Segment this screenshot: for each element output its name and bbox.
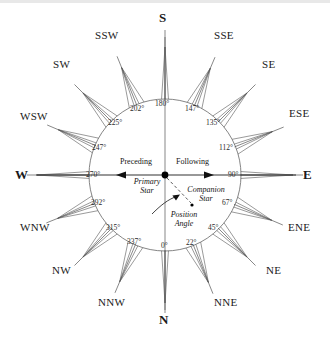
- direction-label-nne: NNE: [214, 297, 238, 308]
- following-label: Following: [176, 158, 209, 166]
- ray-shaft: [218, 228, 247, 257]
- ray-shaft: [194, 68, 210, 106]
- compass-svg: E -->: [0, 0, 330, 338]
- degree-label-112: 112°: [219, 144, 233, 152]
- direction-label-n: N: [159, 313, 169, 326]
- ray-shaft: [122, 67, 137, 105]
- degree-label-202: 202°: [130, 105, 144, 113]
- ray-edge: [58, 130, 94, 148]
- degree-label-270: 270°: [86, 171, 100, 179]
- direction-label-w: W: [15, 168, 28, 181]
- ray-leader: [247, 84, 255, 92]
- ray-shaft: [234, 204, 272, 220]
- ray-leader: [74, 257, 82, 265]
- direction-label-sse: SSE: [214, 30, 234, 41]
- direction-label-ene: ENE: [288, 222, 310, 233]
- compass-rose-figure: E --> S SSE SE ESE E ENE NE NNE N NNW NW…: [0, 0, 330, 338]
- ray-leader: [273, 127, 284, 132]
- primary-star-label-line2: Star: [125, 187, 169, 195]
- ray-leader: [272, 220, 283, 225]
- position-angle-label: Position Angle: [163, 211, 205, 228]
- ray-shaft: [235, 132, 273, 147]
- ray-leader: [115, 282, 120, 293]
- preceding-label: Preceding: [120, 158, 152, 166]
- degree-label-135: 135°: [206, 119, 220, 127]
- degree-label-22: 22°: [186, 239, 197, 247]
- ray-leader: [208, 283, 213, 294]
- degree-label-292: 292°: [91, 199, 105, 207]
- ray-edge: [120, 246, 138, 282]
- direction-label-ssw: SSW: [95, 30, 119, 41]
- ray-edge: [191, 246, 208, 282]
- direction-label-ne: NE: [266, 265, 281, 276]
- degree-label-337: 337°: [127, 238, 141, 246]
- degree-label-225: 225°: [108, 119, 122, 127]
- direction-label-s: S: [159, 11, 167, 24]
- ray-leader: [210, 57, 215, 68]
- companion-star-marker: [190, 203, 193, 206]
- ray-edge: [236, 202, 272, 220]
- direction-label-nnw: NNW: [98, 297, 125, 308]
- ray-edge: [162, 251, 165, 303]
- degree-label-180: 180°: [155, 100, 169, 108]
- direction-label-sw: SW: [53, 59, 70, 70]
- position-angle-label-line2: Angle: [163, 220, 205, 228]
- direction-label-ese: ESE: [289, 108, 309, 119]
- diagram-canvas: E -->: [0, 0, 330, 338]
- degree-label-45: 45°: [208, 224, 219, 232]
- companion-star-label-line1: Companion: [180, 186, 232, 194]
- ray-edge: [165, 251, 168, 303]
- degree-label-315: 315°: [106, 224, 120, 232]
- ray-edge: [122, 67, 139, 103]
- ray-shaft: [218, 93, 247, 122]
- direction-label-nw: NW: [52, 265, 71, 276]
- direction-label-e: E: [303, 168, 312, 181]
- ray-edge: [192, 68, 210, 104]
- following-arrowhead: [204, 172, 214, 179]
- direction-label-wsw: WSW: [20, 111, 48, 122]
- ray-leader: [47, 125, 58, 130]
- ray-edge: [162, 47, 165, 99]
- ray-leader: [247, 257, 255, 265]
- ray-shaft: [57, 203, 95, 218]
- ray-shaft: [83, 228, 112, 257]
- primary-star-label: Primary Star: [125, 178, 169, 195]
- companion-star-label: Companion Star: [180, 186, 232, 203]
- ray-shaft: [193, 245, 208, 283]
- position-angle-label-line1: Position: [163, 211, 205, 219]
- ray-edge: [236, 132, 272, 149]
- primary-star-label-line1: Primary: [125, 178, 169, 186]
- ray-leader: [74, 84, 82, 92]
- degree-label-0: 0°: [161, 242, 168, 250]
- ray-shaft: [120, 244, 136, 282]
- degree-label-247: 247°: [92, 144, 106, 152]
- ray-leader: [117, 56, 122, 67]
- ray-edge: [57, 201, 93, 218]
- direction-label-wnw: WNW: [20, 222, 50, 233]
- direction-label-se: SE: [262, 59, 275, 70]
- degree-label-90: 90°: [228, 171, 239, 179]
- ray-shaft: [58, 130, 96, 146]
- ray-edge: [165, 47, 168, 99]
- degree-label-147: 147°: [185, 105, 199, 113]
- companion-star-label-line2: Star: [180, 195, 232, 203]
